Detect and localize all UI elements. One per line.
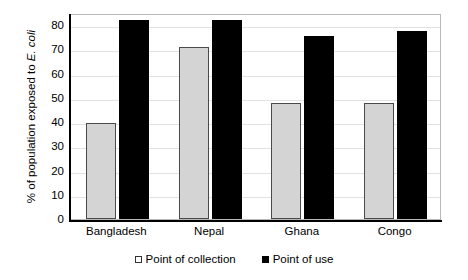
bar-congo-point-of-collection bbox=[364, 103, 394, 219]
bar-nepal-point-of-collection bbox=[179, 47, 209, 219]
bar-ghana-point-of-use bbox=[304, 36, 334, 219]
x-tick-label: Nepal bbox=[163, 224, 256, 238]
bar-chart: % of population exposed to E. coli 80706… bbox=[0, 0, 468, 280]
y-tick-label: 30 bbox=[2, 141, 64, 153]
y-axis-tick-labels: 80706050403020100 bbox=[0, 0, 64, 280]
x-tick-label: Bangladesh bbox=[70, 224, 163, 238]
bar-congo-point-of-use bbox=[397, 31, 427, 219]
x-tick-label: Ghana bbox=[256, 224, 349, 238]
y-tick-label: 60 bbox=[2, 69, 64, 81]
bar-bangladesh-point-of-use bbox=[119, 20, 149, 219]
plot-area bbox=[70, 14, 441, 220]
bar-bangladesh-point-of-collection bbox=[86, 123, 116, 219]
bar-nepal-point-of-use bbox=[212, 20, 242, 219]
y-tick-label: 70 bbox=[2, 44, 64, 56]
x-axis-tick-labels: BangladeshNepalGhanaCongo bbox=[70, 224, 441, 242]
y-tick-label: 0 bbox=[2, 214, 64, 226]
legend-label: Point of collection bbox=[146, 253, 236, 265]
y-axis-line bbox=[69, 14, 71, 221]
chart-legend: Point of collectionPoint of use bbox=[0, 253, 468, 265]
bar-ghana-point-of-collection bbox=[271, 103, 301, 219]
legend-item: Point of collection bbox=[135, 253, 236, 265]
y-tick-label: 40 bbox=[2, 117, 64, 129]
x-axis-line bbox=[69, 220, 442, 222]
y-tick-label: 80 bbox=[2, 20, 64, 32]
y-tick-label: 10 bbox=[2, 190, 64, 202]
legend-label: Point of use bbox=[273, 253, 334, 265]
y-tick-label: 50 bbox=[2, 93, 64, 105]
legend-item: Point of use bbox=[262, 253, 334, 265]
y-tick-label: 20 bbox=[2, 166, 64, 178]
filled-square-marker bbox=[262, 256, 269, 263]
open-square-marker bbox=[135, 256, 142, 263]
x-tick-label: Congo bbox=[348, 224, 441, 238]
